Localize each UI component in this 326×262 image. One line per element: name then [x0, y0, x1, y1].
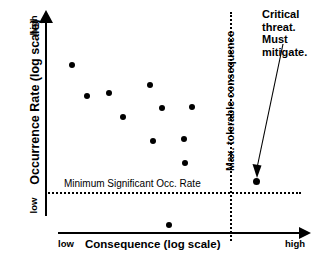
data-point	[106, 90, 112, 96]
annotation-leader-arrow-icon	[248, 40, 288, 180]
data-point	[120, 114, 126, 120]
x-axis-title: Consequence (log scale)	[85, 238, 220, 250]
minimum-significant-occurrence-rate-label: Minimum Significant Occ. Rate	[62, 178, 203, 189]
max-tolerable-consequence-label: Max. tolerable consequence	[224, 11, 236, 191]
y-axis-high-label: high	[28, 9, 39, 43]
data-point	[84, 93, 90, 99]
y-axis-line	[45, 22, 47, 216]
data-point	[182, 160, 188, 166]
annotation-line-2: threat.	[262, 21, 324, 34]
data-point	[150, 138, 156, 144]
annotation-line-4: mitigate.	[262, 46, 324, 59]
minimum-significant-occurrence-rate-line	[45, 192, 301, 194]
risk-matrix-diagram: Occurrence Rate (log scale) high low Con…	[0, 0, 326, 262]
critical-threat-annotation: Critical threat. Must mitigate.	[262, 8, 324, 58]
annotation-line-1: Critical	[262, 8, 324, 21]
y-axis-low-label: low	[28, 189, 39, 223]
x-axis-low-label: low	[58, 238, 74, 249]
critical-threat-data-point	[253, 178, 260, 185]
data-point	[181, 136, 187, 142]
x-axis-line	[58, 232, 302, 234]
annotation-line-3: Must	[262, 33, 324, 46]
data-point	[166, 222, 172, 228]
data-point	[159, 105, 165, 111]
data-point	[147, 82, 153, 88]
data-point	[69, 62, 75, 68]
x-axis-high-label: high	[285, 238, 305, 249]
data-point	[189, 104, 195, 110]
